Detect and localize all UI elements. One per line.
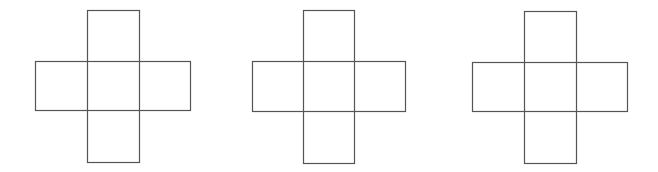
horizontal-bar (253, 62, 406, 112)
cross-net-2 (253, 11, 406, 164)
horizontal-bar (473, 63, 628, 112)
horizontal-bar (36, 62, 191, 111)
vertical-bar (88, 11, 140, 163)
diagram-canvas (0, 0, 658, 172)
cross-net-3 (473, 12, 628, 164)
vertical-bar (525, 12, 577, 164)
vertical-bar (304, 11, 355, 164)
cross-net-1 (36, 11, 191, 163)
